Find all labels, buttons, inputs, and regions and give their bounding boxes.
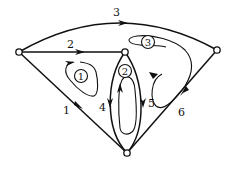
- edge-1-label: 1: [63, 104, 70, 117]
- edge-3: [19, 23, 217, 52]
- loop-1-label: 1: [78, 71, 84, 82]
- edge-2-label: 2: [67, 38, 74, 51]
- node-bottom: [124, 150, 130, 156]
- loop-2: [119, 77, 137, 134]
- loop-1-arrow: [65, 61, 75, 66]
- loop-2-label: 2: [122, 66, 128, 77]
- graph-diagram: 3 2 1 6 4 5 2 1 3: [0, 0, 250, 169]
- node-right: [214, 47, 220, 53]
- loop-3: [129, 36, 191, 108]
- edge-6-label: 6: [178, 106, 185, 119]
- loop-2-arrow: [117, 83, 123, 93]
- node-left: [16, 49, 22, 55]
- loop-3-label: 3: [145, 37, 151, 48]
- node-top-center: [122, 49, 128, 55]
- edge-3-label: 3: [113, 6, 120, 19]
- edge-4-label: 4: [99, 101, 106, 114]
